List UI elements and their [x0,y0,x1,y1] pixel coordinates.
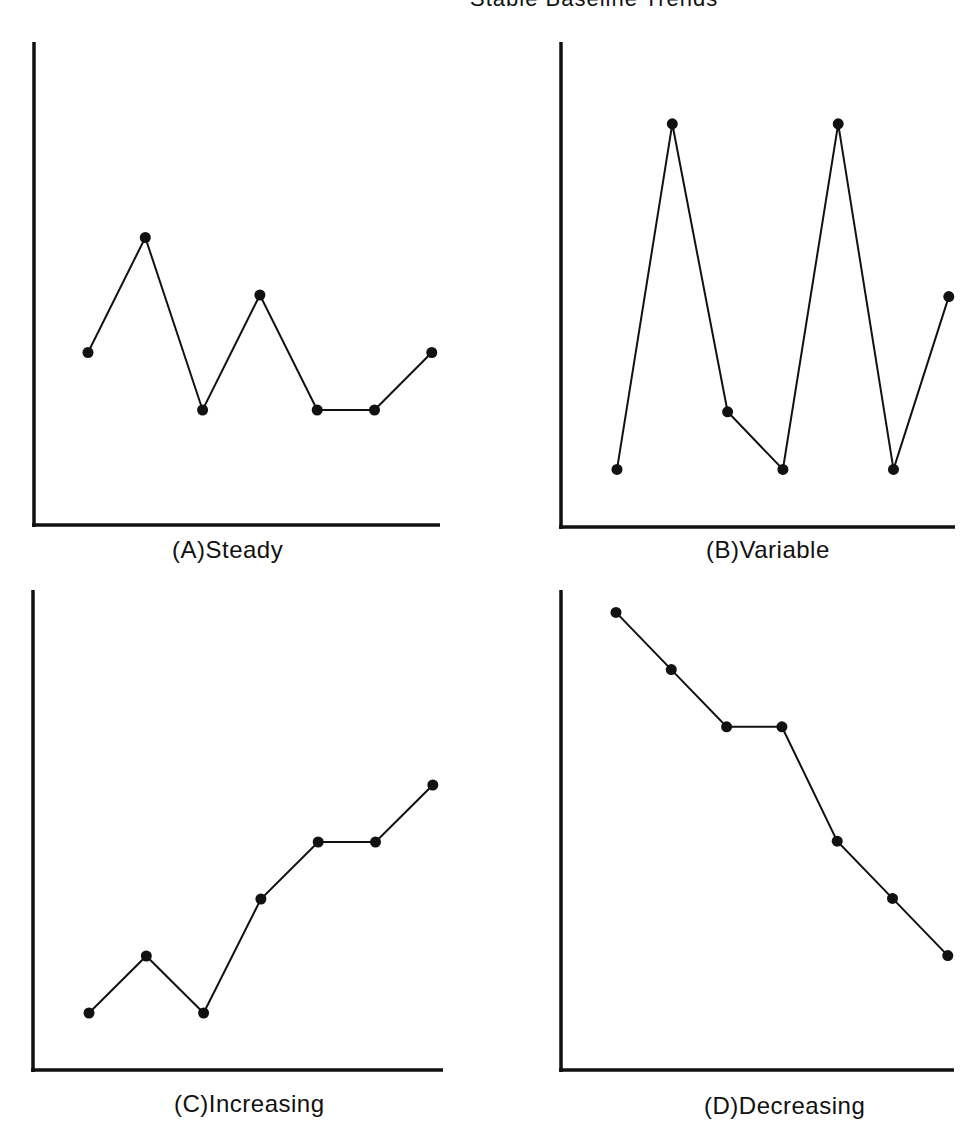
data-point [666,664,677,675]
data-point [369,405,380,416]
data-point [141,951,152,962]
caption-text: Variable [740,536,830,563]
caption-variable: (B)Variable [706,536,830,564]
data-point [254,290,265,301]
caption-steady: (A)Steady [172,536,283,564]
data-line [616,612,948,955]
data-point [722,406,733,417]
line-chart-decreasing [559,590,959,1076]
panel-decreasing [559,590,959,1076]
data-point [312,405,323,416]
data-point [140,232,151,243]
data-point [370,837,381,848]
data-point [832,836,843,847]
caption-decreasing: (D)Decreasing [704,1092,865,1120]
caption-letter: (D) [704,1092,739,1119]
line-chart-variable [559,42,959,532]
line-chart-steady [32,42,442,530]
caption-letter: (C) [174,1090,209,1117]
data-point [84,1008,95,1019]
data-point [887,893,898,904]
caption-increasing: (C)Increasing [174,1090,325,1118]
data-line [88,238,432,411]
data-point [427,780,438,791]
panel-steady [32,42,442,530]
data-point [313,837,324,848]
caption-text: Increasing [209,1090,325,1117]
data-point [255,894,266,905]
caption-letter: (B) [706,536,740,563]
data-point [197,405,208,416]
caption-letter: (A) [172,536,206,563]
data-point [667,118,678,129]
data-point [426,347,437,358]
data-point [776,721,787,732]
data-point [612,464,623,475]
line-chart-increasing [31,590,445,1076]
data-point [611,607,622,618]
data-point [777,464,788,475]
data-point [83,347,94,358]
caption-text: Steady [206,536,284,563]
data-point [721,721,732,732]
data-point [833,118,844,129]
data-point [888,464,899,475]
data-point [198,1008,209,1019]
panel-variable [559,42,959,532]
data-point [942,950,953,961]
data-line [617,124,949,470]
data-point [943,291,954,302]
caption-text: Decreasing [739,1092,865,1119]
figure-title: Stable Baseline Trends [470,0,718,12]
panel-increasing [31,590,445,1076]
